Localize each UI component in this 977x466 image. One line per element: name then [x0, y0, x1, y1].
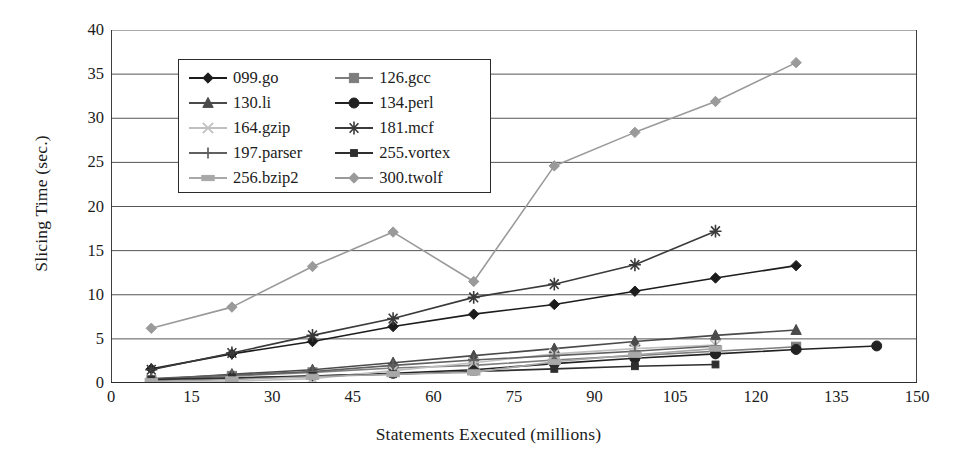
x-tick-30: 30	[249, 388, 295, 406]
legend-label-099.go: 099.go	[233, 65, 333, 90]
legend-symbol-134.perl	[333, 93, 375, 113]
marker-wide	[226, 377, 238, 382]
legend-symbol-181.mcf	[333, 118, 375, 138]
legend-row: 130.li134.perl	[187, 90, 482, 115]
marker-plus	[202, 147, 213, 158]
marker-diamond	[349, 172, 359, 182]
marker-wide	[468, 370, 480, 375]
legend-symbol-cell	[333, 90, 379, 115]
x-tick-0: 0	[88, 388, 134, 406]
marker-wide	[202, 175, 214, 180]
legend-label-256.bzip2: 256.bzip2	[233, 165, 333, 190]
y-tick-10: 10	[66, 287, 104, 303]
marker-diamond	[203, 72, 213, 82]
marker-diamond	[791, 57, 801, 67]
marker-wide	[629, 352, 641, 357]
y-axis-title: Slicing Time (sec.)	[31, 59, 52, 349]
legend-label-197.parser: 197.parser	[233, 140, 333, 165]
x-tick-15: 15	[169, 388, 215, 406]
marker-diamond	[388, 227, 398, 237]
legend-symbol-cell	[187, 90, 233, 115]
marker-asterisk	[307, 329, 319, 342]
marker-asterisk	[468, 291, 480, 304]
x-tick-60: 60	[410, 388, 456, 406]
x-tick-105: 105	[652, 388, 698, 406]
legend-label-130.li: 130.li	[233, 90, 333, 115]
legend-symbol-cell	[187, 165, 233, 190]
x-tick-135: 135	[813, 388, 859, 406]
legend-symbol-cell	[187, 140, 233, 165]
marker-asterisk	[387, 312, 399, 325]
slicing-time-chart: Slicing Time (sec.) Statements Executed …	[0, 0, 977, 466]
marker-asterisk	[348, 121, 360, 134]
marker-diamond	[710, 273, 720, 283]
marker-diamond	[227, 302, 237, 312]
legend-table: 099.go126.gcc130.li134.perl164.gzip181.m…	[187, 65, 482, 190]
legend-symbol-255.vortex	[333, 143, 375, 163]
y-tick-20: 20	[66, 199, 104, 215]
legend-symbol-cell	[333, 65, 379, 90]
marker-diamond	[146, 323, 156, 333]
legend-symbol-256.bzip2	[187, 168, 229, 188]
legend-row: 099.go126.gcc	[187, 65, 482, 90]
legend-row: 164.gzip181.mcf	[187, 115, 482, 140]
marker-wide	[306, 374, 318, 379]
marker-wide	[548, 359, 560, 364]
legend-symbol-cell	[333, 115, 379, 140]
marker-diamond	[307, 261, 317, 271]
legend-symbol-cell	[187, 65, 233, 90]
legend-symbol-300.twolf	[333, 168, 375, 188]
legend-label-300.twolf: 300.twolf	[379, 165, 482, 190]
marker-square	[350, 73, 359, 82]
legend-symbol-cell	[333, 140, 379, 165]
x-tick-75: 75	[491, 388, 537, 406]
y-tick-40: 40	[66, 22, 104, 38]
legend-label-255.vortex: 255.vortex	[379, 140, 482, 165]
marker-circle	[349, 98, 359, 108]
marker-small-square	[551, 365, 558, 372]
marker-asterisk	[710, 225, 722, 238]
x-tick-45: 45	[330, 388, 376, 406]
x-tick-90: 90	[572, 388, 618, 406]
legend-symbol-099.go	[187, 68, 229, 88]
legend-row: 256.bzip2300.twolf	[187, 165, 482, 190]
y-tick-15: 15	[66, 243, 104, 259]
y-tick-5: 5	[66, 331, 104, 347]
marker-circle	[791, 344, 801, 354]
legend-symbol-130.li	[187, 93, 229, 113]
marker-small-square	[712, 361, 719, 368]
marker-triangle	[791, 324, 801, 334]
legend-symbol-cell	[333, 165, 379, 190]
legend-symbol-197.parser	[187, 143, 229, 163]
line-134.perl	[151, 346, 876, 381]
marker-asterisk	[226, 347, 238, 360]
legend-symbol-164.gzip	[187, 118, 229, 138]
marker-diamond	[710, 96, 720, 106]
marker-diamond	[630, 127, 640, 137]
marker-diamond	[791, 260, 801, 270]
x-axis-title: Statements Executed (millions)	[0, 424, 977, 445]
marker-small-square	[632, 363, 639, 370]
legend-symbol-cell	[187, 115, 233, 140]
legend-label-164.gzip: 164.gzip	[233, 115, 333, 140]
y-tick-25: 25	[66, 154, 104, 170]
legend-symbol-126.gcc	[333, 68, 375, 88]
legend-label-126.gcc: 126.gcc	[379, 65, 482, 90]
y-tick-30: 30	[66, 110, 104, 126]
marker-asterisk	[548, 278, 560, 291]
marker-small-square	[351, 149, 358, 156]
y-tick-35: 35	[66, 66, 104, 82]
legend: 099.go126.gcc130.li134.perl164.gzip181.m…	[178, 59, 491, 193]
legend-row: 197.parser255.vortex	[187, 140, 482, 165]
legend-label-181.mcf: 181.mcf	[379, 115, 482, 140]
x-tick-120: 120	[733, 388, 779, 406]
marker-wide	[709, 346, 721, 351]
marker-wide	[387, 372, 399, 377]
marker-diamond	[469, 309, 479, 319]
x-tick-150: 150	[894, 388, 940, 406]
marker-asterisk	[629, 258, 641, 271]
x-axis-tick-labels: 0153045607590105120135150	[0, 388, 977, 414]
marker-diamond	[469, 276, 479, 286]
marker-circle	[872, 341, 882, 351]
marker-diamond	[549, 299, 559, 309]
